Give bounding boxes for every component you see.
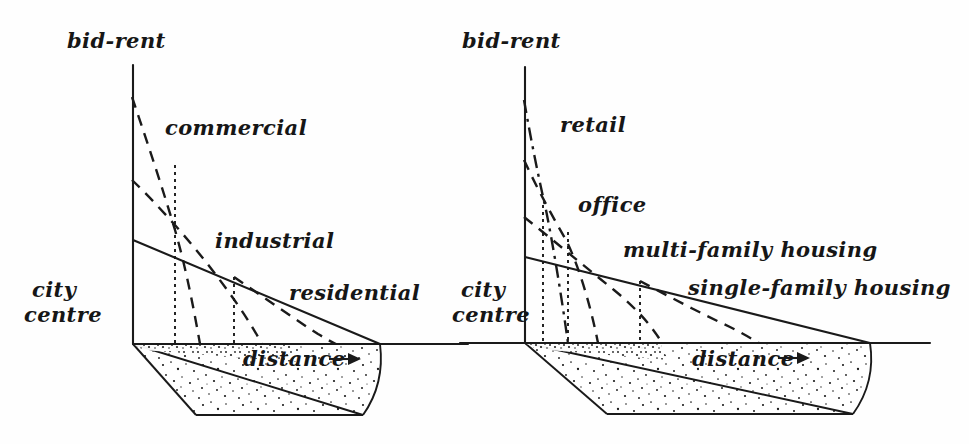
left-curve-industrial bbox=[132, 180, 262, 344]
right-label-retail: retail bbox=[560, 112, 626, 137]
left-y-axis-label: bid-rent bbox=[67, 28, 166, 53]
right-y-axis-label: bid-rent bbox=[462, 28, 561, 53]
left-label-residential: residential bbox=[289, 280, 420, 305]
right-diagram: bid-rent city centre retail office multi… bbox=[452, 28, 951, 414]
right-curve-office bbox=[524, 160, 598, 343]
left-label-industrial: industrial bbox=[215, 228, 334, 253]
left-diagram: bid-rent city centre commercial industri… bbox=[24, 28, 468, 415]
left-origin-label-line1: city bbox=[32, 277, 78, 302]
right-label-office: office bbox=[578, 192, 647, 217]
left-label-commercial: commercial bbox=[165, 115, 307, 140]
right-origin-label-line1: city bbox=[461, 277, 507, 302]
bid-rent-diagrams-svg: bid-rent city centre commercial industri… bbox=[0, 0, 969, 444]
right-curve-singlefamily bbox=[525, 257, 870, 343]
bid-rent-figure: bid-rent city centre commercial industri… bbox=[0, 0, 969, 444]
left-origin-label-line2: centre bbox=[24, 302, 102, 327]
right-label-singlefamily: single-family housing bbox=[687, 275, 951, 300]
right-label-multifamily: multi-family housing bbox=[623, 237, 877, 262]
right-origin-label-line2: centre bbox=[452, 302, 530, 327]
